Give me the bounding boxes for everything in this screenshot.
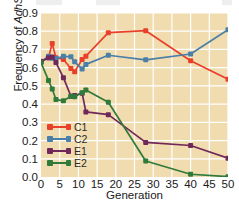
data-point-C1 bbox=[106, 30, 111, 35]
data-point-E2 bbox=[226, 174, 229, 177]
legend-item-E2: E2 bbox=[47, 157, 87, 169]
data-point-C1 bbox=[226, 77, 229, 82]
data-point-E2 bbox=[106, 100, 111, 105]
y-tick-label: 0.8 bbox=[22, 25, 38, 37]
legend-marker-icon bbox=[66, 124, 72, 130]
data-point-E1 bbox=[83, 109, 88, 114]
data-point-C2 bbox=[83, 62, 88, 67]
data-point-E2 bbox=[188, 172, 193, 177]
data-point-E2 bbox=[53, 97, 58, 102]
y-axis-tick-labels: 0.90.80.70.60.50.40.30.20.10.0 bbox=[0, 0, 38, 203]
data-point-C2 bbox=[226, 27, 229, 32]
legend-swatch-E2 bbox=[47, 157, 71, 169]
legend-marker-icon bbox=[47, 160, 53, 166]
y-tick-label: 0.6 bbox=[22, 62, 38, 74]
data-point-E1 bbox=[188, 143, 193, 148]
legend-marker-icon bbox=[47, 148, 53, 154]
top-crop-artifact-mid bbox=[96, 0, 120, 5]
data-point-C2 bbox=[143, 57, 148, 62]
data-point-E2 bbox=[41, 60, 44, 65]
legend-item-C2: C2 bbox=[47, 133, 87, 145]
legend-item-E1: E1 bbox=[47, 145, 87, 157]
legend-label: C1 bbox=[74, 121, 87, 133]
data-point-E2 bbox=[50, 86, 55, 91]
data-point-E2 bbox=[143, 158, 148, 163]
top-crop-artifact-right bbox=[222, 0, 232, 5]
legend-swatch-E1 bbox=[47, 145, 71, 157]
data-point-C1 bbox=[143, 28, 148, 33]
data-point-E2 bbox=[46, 78, 51, 83]
legend-marker-icon bbox=[66, 148, 72, 154]
data-point-C1 bbox=[72, 69, 77, 74]
y-tick-label: 0.3 bbox=[22, 116, 38, 128]
data-point-C1 bbox=[50, 41, 55, 46]
y-tick-label: 0.7 bbox=[22, 43, 38, 55]
data-point-C2 bbox=[188, 52, 193, 57]
data-point-E2 bbox=[72, 94, 77, 99]
data-point-C2 bbox=[72, 59, 77, 64]
top-crop-artifact-left bbox=[36, 0, 62, 5]
data-point-C2 bbox=[80, 67, 85, 72]
y-tick-label: 0.1 bbox=[22, 153, 38, 165]
data-point-E2 bbox=[61, 98, 66, 103]
legend-marker-icon bbox=[66, 136, 72, 142]
y-tick-label: 0.9 bbox=[22, 7, 38, 19]
x-axis-label: Generation bbox=[41, 189, 228, 201]
data-point-E1 bbox=[50, 55, 55, 60]
data-point-C1 bbox=[83, 54, 88, 59]
data-point-C2 bbox=[106, 53, 111, 58]
y-tick-label: 0.2 bbox=[22, 135, 38, 147]
legend-swatch-C1 bbox=[47, 121, 71, 133]
legend-marker-icon bbox=[47, 124, 53, 130]
data-point-E1 bbox=[226, 156, 229, 161]
data-point-E1 bbox=[106, 112, 111, 117]
legend-label: E1 bbox=[74, 145, 87, 157]
chart-legend: C1C2E1E2 bbox=[47, 121, 87, 169]
data-point-E1 bbox=[143, 140, 148, 145]
data-point-C2 bbox=[61, 54, 66, 59]
y-tick-label: 0.4 bbox=[22, 98, 38, 110]
legend-label: E2 bbox=[74, 157, 87, 169]
y-tick-label: 0.5 bbox=[22, 80, 38, 92]
data-point-C1 bbox=[188, 58, 193, 63]
data-point-E2 bbox=[83, 87, 88, 92]
figure-panel: Frequency of AdhS 0.90.80.70.60.50.40.30… bbox=[0, 0, 239, 203]
legend-marker-icon bbox=[66, 160, 72, 166]
legend-swatch-C2 bbox=[47, 133, 71, 145]
data-point-C2 bbox=[68, 54, 73, 59]
legend-label: C2 bbox=[74, 133, 87, 145]
data-point-E1 bbox=[61, 75, 66, 80]
legend-marker-icon bbox=[47, 136, 53, 142]
data-point-E1 bbox=[53, 60, 58, 65]
legend-item-C1: C1 bbox=[47, 121, 87, 133]
